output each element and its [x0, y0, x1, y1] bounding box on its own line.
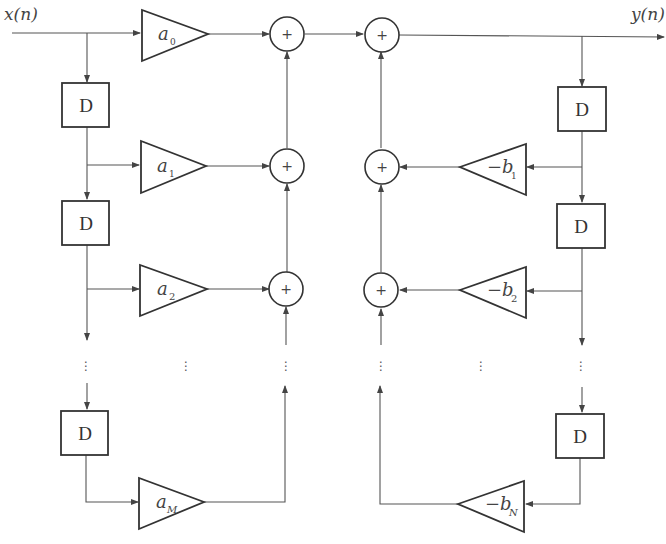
svg-text:⋮: ⋮	[475, 359, 487, 373]
adder-right-1: +	[365, 150, 399, 184]
svg-text:a: a	[156, 491, 167, 512]
svg-text:a: a	[158, 23, 169, 44]
svg-text:2: 2	[511, 293, 517, 304]
adder-left-0: +	[270, 17, 304, 51]
delay-block-left-1: D	[62, 83, 109, 127]
svg-text:a: a	[157, 155, 168, 176]
svg-text:⋮: ⋮	[80, 359, 92, 373]
svg-text:+: +	[376, 27, 388, 43]
adder-left-1: +	[270, 149, 304, 183]
svg-text:D: D	[574, 216, 588, 237]
svg-text:a: a	[157, 278, 168, 299]
adder-right-2: +	[364, 273, 398, 307]
gain-bn: −b N	[458, 481, 524, 532]
output-label: y(n)	[630, 4, 665, 24]
delay-block-right-n: D	[556, 414, 604, 458]
svg-text:1: 1	[511, 171, 517, 181]
ellipsis-dots: ⋮ ⋮ ⋮ ⋮ ⋮ ⋮	[80, 359, 587, 373]
filter-diagram: x(n) y(n)	[0, 0, 666, 544]
gain-b1: −b 1	[460, 144, 526, 195]
delay-block-left-m: D	[61, 411, 108, 455]
svg-text:1: 1	[169, 169, 175, 179]
gain-b2: −b 2	[460, 267, 526, 318]
svg-text:D: D	[575, 99, 589, 120]
svg-text:D: D	[79, 213, 93, 234]
svg-text:⋮: ⋮	[375, 359, 387, 373]
svg-text:+: +	[375, 282, 387, 298]
gain-a0: a 0	[142, 10, 208, 61]
gain-a2: a 2	[140, 265, 207, 316]
gain-a1: a 1	[141, 141, 206, 193]
svg-text:D: D	[78, 423, 92, 444]
svg-text:⋮: ⋮	[575, 359, 587, 373]
svg-text:+: +	[280, 281, 292, 297]
svg-text:−b: −b	[487, 279, 514, 300]
delay-block-right-1: D	[558, 87, 606, 131]
svg-text:2: 2	[169, 291, 175, 302]
svg-text:−b: −b	[487, 156, 514, 177]
input-label: x(n)	[4, 4, 38, 24]
svg-text:⋮: ⋮	[280, 359, 292, 373]
adder-right-0: +	[365, 18, 399, 52]
svg-text:+: +	[376, 159, 388, 175]
delay-block-right-2: D	[557, 204, 605, 248]
svg-text:+: +	[281, 26, 293, 42]
adder-left-2: +	[269, 272, 303, 306]
delay-block-left-2: D	[62, 201, 109, 245]
svg-text:D: D	[79, 95, 93, 116]
svg-text:0: 0	[170, 37, 176, 47]
gain-am: a M	[139, 478, 204, 529]
svg-text:D: D	[573, 426, 587, 447]
svg-text:+: +	[281, 158, 293, 174]
svg-text:N: N	[508, 507, 519, 518]
svg-text:−b: −b	[485, 493, 512, 514]
svg-text:⋮: ⋮	[180, 359, 192, 373]
svg-text:M: M	[166, 504, 178, 515]
